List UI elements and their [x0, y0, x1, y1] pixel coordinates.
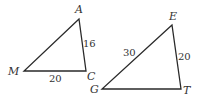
triangle-egt	[102, 25, 181, 89]
vertex-label-e: E	[168, 10, 177, 23]
side-label-ac: 16	[83, 38, 96, 49]
triangles-diagram: A M C 16 20 E G T 30 20	[0, 0, 201, 101]
triangle-amc	[24, 19, 86, 71]
vertex-label-a: A	[74, 3, 83, 16]
side-label-ge: 30	[123, 47, 136, 58]
vertex-label-g: G	[90, 83, 99, 96]
side-label-mc: 20	[49, 73, 62, 84]
vertex-label-m: M	[7, 65, 20, 78]
side-label-et: 20	[178, 51, 191, 62]
vertex-label-c: C	[87, 70, 96, 83]
vertex-label-t: T	[183, 84, 192, 97]
